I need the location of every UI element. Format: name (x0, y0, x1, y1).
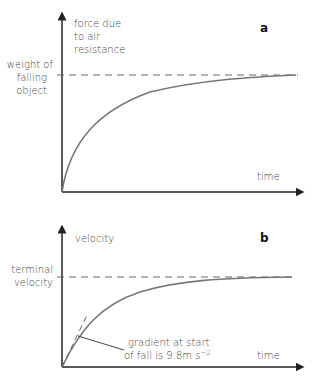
annotation-line2: of fall is 9.8m s (124, 350, 200, 361)
svg-text:terminal: terminal (11, 264, 53, 275)
panel-b: velocity terminal velocity gradient at s… (11, 229, 300, 367)
x-label: time (257, 171, 280, 182)
svg-text:resistance: resistance (74, 44, 125, 55)
y-label-line1: force due (74, 18, 121, 29)
annotation-leader (78, 336, 124, 350)
tangent-dashed-line (62, 313, 88, 367)
svg-text:weight of: weight of (7, 59, 54, 70)
panel-a: force due to air resistance weight of fa… (7, 16, 300, 192)
annotation-line1: gradient at start (128, 337, 210, 348)
svg-text:to air: to air (74, 31, 101, 42)
svg-text:gradient at start: gradient at start (128, 337, 210, 348)
svg-text:object: object (16, 85, 47, 96)
panel-tag: a (260, 21, 268, 35)
ref-label-line3: object (16, 85, 47, 96)
svg-text:velocity: velocity (75, 233, 114, 244)
svg-text:velocity: velocity (14, 277, 53, 288)
y-label-line2: to air (74, 31, 101, 42)
svg-text:falling: falling (17, 72, 47, 83)
svg-text:force due: force due (74, 18, 121, 29)
y-label: velocity (75, 233, 114, 244)
ref-label-line2: falling (17, 72, 47, 83)
svg-text:b: b (260, 231, 269, 245)
svg-text:time: time (257, 350, 280, 361)
svg-text:time: time (257, 171, 280, 182)
x-label: time (257, 350, 280, 361)
panel-tag: b (260, 231, 269, 245)
diagram: force due to air resistance weight of fa… (0, 0, 318, 378)
ref-label-line1: terminal (11, 264, 53, 275)
annotation-superscript: −2 (200, 349, 210, 357)
svg-text:a: a (260, 21, 268, 35)
ref-label-line1: weight of (7, 59, 54, 70)
y-label-line3: resistance (74, 44, 125, 55)
svg-text:of fall is 9.8m s−2: of fall is 9.8m s−2 (124, 349, 211, 361)
ref-label-line2: velocity (14, 277, 53, 288)
